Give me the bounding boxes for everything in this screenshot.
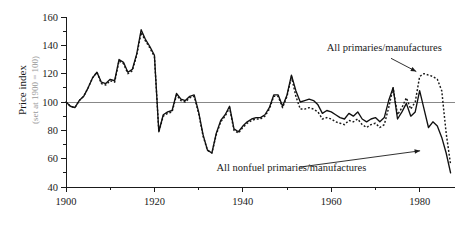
annotation-label: All nonfuel primaries/manufactures — [217, 162, 367, 173]
y-axis-label-sub: (set at 1900 = 100) — [30, 56, 40, 124]
figure-container: 16014012010080604019001920194019601980 A… — [0, 0, 466, 229]
y-tick-label: 80 — [48, 125, 59, 136]
annotation-arrowhead — [414, 149, 420, 154]
price-index-line-chart: 16014012010080604019001920194019601980 A… — [0, 0, 466, 229]
y-tick-label: 140 — [42, 40, 58, 51]
y-tick-label: 160 — [42, 12, 58, 23]
x-tick-label: 1900 — [56, 196, 77, 207]
y-tick-label: 40 — [48, 182, 59, 193]
y-axis-label-main: Price index — [16, 65, 28, 115]
x-tick-label: 1940 — [232, 196, 253, 207]
y-axis-label: Price index(set at 1900 = 100) — [16, 56, 40, 124]
x-tick-label: 1960 — [321, 196, 342, 207]
y-tick-label: 100 — [42, 97, 58, 108]
annotation-label: All primaries/manufactures — [327, 42, 442, 53]
x-tick-label: 1920 — [144, 196, 165, 207]
y-tick-label: 120 — [42, 68, 58, 79]
axes: 16014012010080604019001920194019601980 — [42, 12, 455, 207]
y-tick-label: 60 — [48, 153, 59, 164]
x-tick-label: 1980 — [409, 196, 430, 207]
